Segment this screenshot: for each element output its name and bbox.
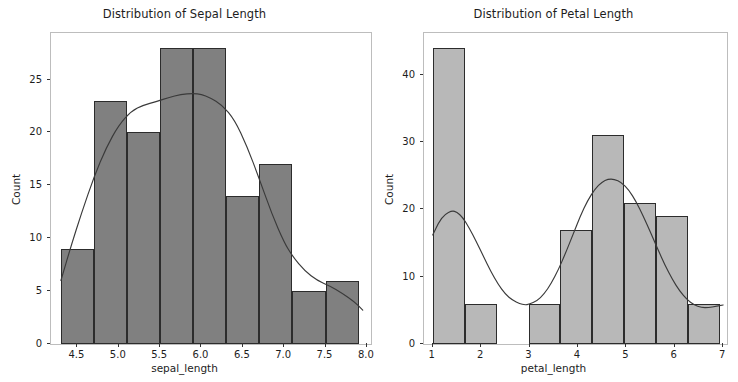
- x-tick-label: 4.5: [69, 349, 85, 360]
- histogram-bar: [193, 48, 226, 344]
- y-tick-label: 15: [16, 179, 42, 190]
- x-tick-mark: [722, 343, 723, 347]
- y-tick-label: 40: [389, 68, 415, 79]
- x-axis-label-sepal-length: sepal_length: [0, 362, 369, 374]
- x-tick-mark: [480, 343, 481, 347]
- y-tick-mark: [47, 290, 51, 291]
- figure-canvas: Distribution of Sepal Length sepal_lengt…: [0, 0, 738, 382]
- y-tick-mark: [420, 141, 424, 142]
- histogram-bar: [592, 135, 624, 344]
- y-tick-mark: [420, 74, 424, 75]
- x-tick-label: 1: [429, 349, 435, 360]
- x-tick-mark: [674, 343, 675, 347]
- y-tick-mark: [47, 79, 51, 80]
- y-tick-mark: [47, 131, 51, 132]
- x-tick-label: 5.0: [110, 349, 126, 360]
- x-tick-label: 5: [622, 349, 628, 360]
- chart-panel-sepal-length: Distribution of Sepal Length sepal_lengt…: [0, 0, 369, 382]
- x-tick-label: 2: [477, 349, 483, 360]
- y-tick-label: 0: [16, 338, 42, 349]
- y-axis-label-petal-length: Count: [383, 174, 395, 205]
- histogram-bar: [94, 101, 127, 344]
- x-tick-mark: [200, 343, 201, 347]
- histogram-bar: [61, 249, 94, 344]
- y-tick-mark: [420, 276, 424, 277]
- histogram-bar: [465, 304, 497, 344]
- x-tick-label: 7.5: [317, 349, 333, 360]
- x-tick-mark: [625, 343, 626, 347]
- x-tick-label: 5.5: [151, 349, 167, 360]
- y-tick-label: 10: [389, 270, 415, 281]
- histogram-bar: [656, 216, 688, 344]
- plot-area-petal-length: [423, 32, 728, 345]
- y-tick-label: 0: [389, 338, 415, 349]
- x-tick-label: 6.5: [234, 349, 250, 360]
- y-tick-label: 10: [16, 232, 42, 243]
- histogram-bar: [292, 291, 325, 344]
- x-tick-mark: [432, 343, 433, 347]
- y-tick-mark: [420, 343, 424, 344]
- histogram-bar: [529, 304, 561, 344]
- x-tick-mark: [325, 343, 326, 347]
- y-tick-label: 20: [389, 203, 415, 214]
- histogram-bar: [160, 48, 193, 344]
- x-tick-mark: [529, 343, 530, 347]
- x-tick-mark: [76, 343, 77, 347]
- histogram-bar: [326, 281, 359, 344]
- x-tick-mark: [159, 343, 160, 347]
- histogram-bar: [624, 203, 656, 344]
- x-tick-mark: [283, 343, 284, 347]
- x-tick-mark: [242, 343, 243, 347]
- x-tick-mark: [577, 343, 578, 347]
- histogram-bar: [688, 304, 720, 344]
- y-tick-label: 20: [16, 126, 42, 137]
- x-tick-mark: [366, 343, 367, 347]
- chart-title-sepal-length: Distribution of Sepal Length: [0, 7, 369, 21]
- x-tick-label: 3: [525, 349, 531, 360]
- y-tick-mark: [47, 184, 51, 185]
- histogram-bar: [560, 230, 592, 344]
- x-tick-label: 6.0: [193, 349, 209, 360]
- x-tick-label: 4: [574, 349, 580, 360]
- y-tick-mark: [420, 208, 424, 209]
- x-tick-label: 6: [671, 349, 677, 360]
- x-tick-label: 7.0: [275, 349, 291, 360]
- histogram-bar: [433, 48, 465, 344]
- plot-area-sepal-length: [50, 32, 372, 345]
- x-tick-mark: [118, 343, 119, 347]
- y-tick-mark: [47, 237, 51, 238]
- y-tick-label: 25: [16, 73, 42, 84]
- chart-panel-petal-length: Distribution of Petal Length petal_lengt…: [369, 0, 738, 382]
- y-tick-mark: [47, 343, 51, 344]
- y-tick-label: 30: [389, 136, 415, 147]
- chart-title-petal-length: Distribution of Petal Length: [369, 7, 738, 21]
- histogram-bar: [259, 164, 292, 344]
- x-tick-label: 7: [719, 349, 725, 360]
- histogram-bar: [226, 196, 259, 344]
- y-tick-label: 5: [16, 285, 42, 296]
- x-axis-label-petal-length: petal_length: [369, 362, 738, 374]
- histogram-bar: [127, 132, 160, 344]
